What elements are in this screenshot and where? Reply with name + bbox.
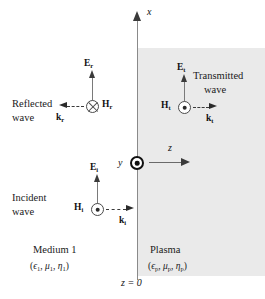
plasma-eta-sub: p [180, 265, 183, 272]
reflected-k-vector-label: kr [56, 112, 64, 123]
incident-wave-label-line1: Incident [12, 192, 46, 204]
incident-e-field-label: Ei [90, 162, 98, 173]
transmitted-h-field-label: Ht [161, 100, 171, 111]
incident-k-vector-arrowhead [126, 205, 134, 211]
z-axis-label: z [168, 142, 172, 154]
transmitted-wave-label-line2: wave [204, 84, 226, 96]
incident-e-field-arrowhead [94, 174, 100, 182]
incident-h-field-out-of-page-icon [91, 203, 104, 216]
incident-h-field-label: Hi [74, 202, 83, 213]
reflected-e-subscript: r [90, 62, 93, 69]
y-axis-label: y [118, 157, 122, 169]
transmitted-k-vector-arrowhead [209, 103, 217, 109]
reflected-wave-label-line1: Reflected [12, 98, 52, 110]
x-axis-label: x [147, 6, 151, 18]
medium1-name-label: Medium 1 [33, 244, 76, 256]
incident-k-vector-label: ki [119, 215, 126, 226]
transmitted-k-vector-dash [193, 107, 209, 108]
transmitted-k-subscript: t [211, 117, 213, 124]
x-axis-line [137, 18, 138, 280]
medium1-parameters: (ϵ1, μ1, η1) [30, 261, 69, 272]
y-axis-out-of-page-icon [130, 156, 144, 170]
incident-k-vector-dash [106, 209, 126, 210]
incident-e-subscript: i [96, 166, 98, 173]
reflected-wave-label-line2: wave [12, 112, 34, 124]
medium1-epsilon-sub: 1 [37, 265, 40, 272]
plasma-epsilon-sub: p [155, 265, 158, 272]
figure-canvas: x y z Reflected wave Er Hr kr Incident w… [0, 0, 265, 299]
transmitted-h-field-out-of-page-icon [178, 101, 191, 114]
z-axis-arrowhead [181, 158, 190, 166]
transmitted-k-vector-label: kt [206, 113, 213, 124]
plasma-parameters: (ϵp, μp, ηp) [148, 261, 187, 272]
x-axis-arrowhead [133, 11, 141, 21]
z-axis-line [149, 162, 182, 163]
transmitted-e-field-label: Et [177, 62, 186, 73]
reflected-e-field-arrowhead [89, 70, 95, 78]
boundary-plane-label: z = 0 [121, 277, 142, 289]
transmitted-wave-label-line1: Transmitted [193, 70, 243, 82]
reflected-h-field-label: Hr [102, 99, 112, 110]
reflected-h-field-into-page-icon [86, 100, 99, 113]
reflected-k-subscript: r [61, 116, 64, 123]
reflected-k-vector-arrowhead [59, 102, 67, 108]
transmitted-e-field-arrowhead [181, 74, 187, 82]
plasma-mu-sub: p [168, 265, 171, 272]
incident-h-subscript: i [81, 206, 83, 213]
incident-wave-label-line2: wave [12, 206, 34, 218]
incident-k-subscript: i [124, 219, 126, 226]
reflected-e-field-label: Er [84, 58, 93, 69]
medium1-eta-sub: 1 [62, 265, 65, 272]
reflected-k-vector-dash [67, 106, 84, 107]
plasma-name-label: Plasma [150, 244, 180, 256]
transmitted-h-subscript: t [168, 104, 170, 111]
reflected-h-subscript: r [109, 103, 112, 110]
transmitted-e-subscript: t [183, 66, 185, 73]
medium1-mu-sub: 1 [50, 265, 53, 272]
